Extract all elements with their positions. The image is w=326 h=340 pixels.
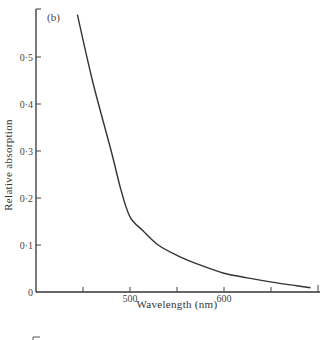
absorption-chart: 500600 00·10·20·30·40·5 (b) Wavelength (…: [0, 0, 326, 340]
y-tick-label: 0·2: [20, 193, 33, 204]
y-tick-label: 0·4: [20, 99, 33, 110]
y-tick-label: 0·3: [20, 146, 33, 157]
y-axis-title: Relative absorption: [2, 119, 14, 211]
x-tick-label: 500: [123, 293, 138, 304]
y-tick-label: 0·1: [20, 240, 33, 251]
y-tick-label: 0·5: [20, 52, 33, 63]
x-axis-title: Wavelength (nm): [137, 298, 218, 311]
x-tick-label: 600: [217, 293, 232, 304]
absorption-curve: [77, 15, 310, 288]
axes: [36, 9, 320, 292]
y-tick-label: 0: [28, 287, 33, 298]
y-ticks: 00·10·20·30·40·5: [20, 52, 41, 298]
panel-label: (b): [47, 11, 60, 24]
